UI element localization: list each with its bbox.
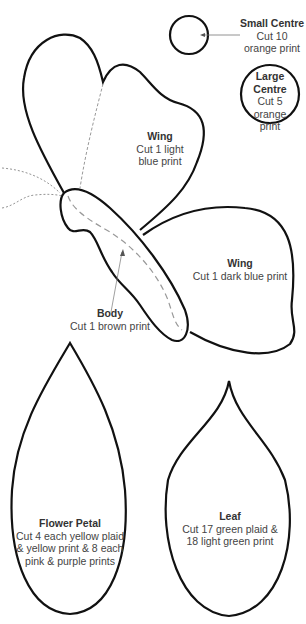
upper-wing-name: Wing <box>115 130 205 143</box>
upper-wing-dashed-line <box>80 84 103 188</box>
large-centre-name-1: Large <box>245 70 295 83</box>
small-centre-name: Small Centre <box>232 17 306 30</box>
upper-wing-line-1: Cut 1 light <box>115 143 205 156</box>
leaf-shape <box>166 381 290 616</box>
flower-petal-line-2: & yellow print & 8 each <box>4 542 136 555</box>
body-label: Body Cut 1 brown print <box>55 307 165 332</box>
lower-wing-name: Wing <box>180 257 300 270</box>
flower-petal-name: Flower Petal <box>4 517 136 530</box>
body-line-1: Cut 1 brown print <box>55 320 165 333</box>
large-centre-line-3: print <box>245 120 295 133</box>
large-centre-label: Large Centre Cut 5 orange print <box>245 70 295 133</box>
small-centre-label: Small Centre Cut 10 orange print <box>232 17 306 55</box>
leaf-line-2: 18 light green print <box>174 535 286 548</box>
body-name: Body <box>55 307 165 320</box>
upper-wing-label: Wing Cut 1 light blue print <box>115 130 205 168</box>
flower-petal-line-1: Cut 4 each yellow plaid <box>4 530 136 543</box>
large-centre-name-2: Centre <box>245 83 295 96</box>
leaf-line-1: Cut 17 green plaid & <box>174 523 286 536</box>
leaf-name: Leaf <box>174 510 286 523</box>
lower-wing-label: Wing Cut 1 dark blue print <box>180 257 300 282</box>
flower-petal-label: Flower Petal Cut 4 each yellow plaid & y… <box>4 517 136 567</box>
small-centre-line-1: Cut 10 <box>232 30 306 43</box>
upper-wing-line-2: blue print <box>115 155 205 168</box>
small-centre-line-2: orange print <box>232 42 306 55</box>
large-centre-line-1: Cut 5 <box>245 95 295 108</box>
arrowhead-icon <box>120 249 125 256</box>
flower-petal-line-3: pink & purple prints <box>4 555 136 568</box>
large-centre-line-2: orange <box>245 108 295 121</box>
flower-petal-shape <box>12 343 126 614</box>
arrowhead-icon <box>200 33 205 37</box>
lower-wing-line-1: Cut 1 dark blue print <box>180 270 300 283</box>
antenna-lower <box>2 194 62 208</box>
leaf-label: Leaf Cut 17 green plaid & 18 light green… <box>174 510 286 548</box>
